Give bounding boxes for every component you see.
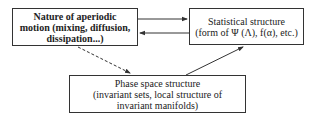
node-text-line: Statistical structure xyxy=(208,16,285,27)
node-text-line: (invariant sets, local structure of xyxy=(93,89,222,100)
node-text-line: motion (mixing, diffusion, xyxy=(20,22,131,33)
node-statistical-structure: Statistical structure (form of Ψ (Λ), f(… xyxy=(189,8,304,45)
node-text-line: dissipation...) xyxy=(47,33,104,44)
node-text-line: (form of Ψ (Λ), f(α), etc.) xyxy=(195,27,298,38)
node-phase-space-structure: Phase space structure (invariant sets, l… xyxy=(69,75,246,113)
node-text-line: Phase space structure xyxy=(115,78,201,89)
arrow-phase-to-statistical xyxy=(186,47,243,75)
node-text-line: invariant manifolds) xyxy=(117,100,198,111)
arrow-nature-to-phase-dashed xyxy=(78,47,130,73)
node-nature-of-aperiodic-motion: Nature of aperiodic motion (mixing, diff… xyxy=(12,8,138,46)
node-text-line: Nature of aperiodic xyxy=(33,11,116,22)
